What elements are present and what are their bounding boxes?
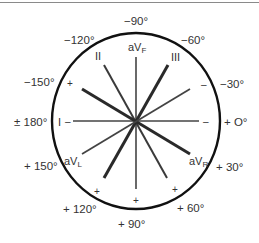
sign-minus-neg30-i: – [65,116,71,127]
angle-label-neg90: −90° [124,15,148,27]
angle-label-pos150: + 150° [24,160,58,172]
sign-plus-90: + [133,195,139,206]
lead-label-II: II [95,50,101,62]
angle-label-pos0: + O° [224,116,247,128]
angle-label-pm180: ± 180° [14,116,47,128]
lead-label-aVL: aVL [64,155,82,169]
sign-minus-neg30: – [201,79,207,90]
sign-minus-0: – [203,116,209,127]
lead-label-aVR: aVR [189,155,208,169]
angle-label-pos90: + 90° [118,218,145,230]
angle-label-neg120: −120° [64,34,95,46]
angle-label-neg150: −150° [24,76,55,88]
angle-label-neg30: −30° [220,78,244,90]
sign-plus-neg150: + [67,78,73,89]
lead-label-III: III [171,51,180,63]
hexaxial-diagram: −90° −120° −60° −150° −30° ± 180° + O° +… [0,0,259,243]
angle-label-pos60: + 60° [177,202,204,214]
sign-plus-60: + [172,184,178,195]
lead-label-I: I [58,116,61,128]
angle-label-pos120: + 120° [63,203,97,215]
angle-label-neg60: −60° [181,34,205,46]
angle-label-pos30: + 30° [216,161,243,173]
sign-plus-120: + [94,186,100,197]
lead-label-aVF: aVF [128,41,146,55]
